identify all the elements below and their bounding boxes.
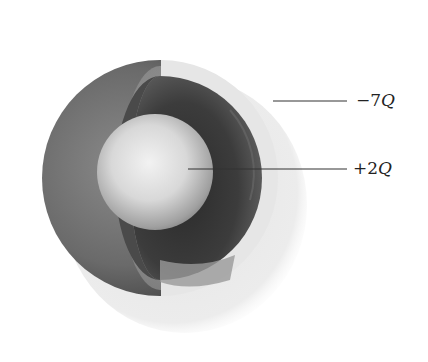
label-outer-shell-charge: −7Q [356, 90, 395, 110]
charge-coefficient: +2 [353, 158, 378, 178]
inner-sphere [97, 114, 213, 230]
sphere-shell-diagram [0, 0, 428, 362]
charge-symbol: Q [378, 158, 392, 178]
charge-symbol: Q [381, 90, 395, 110]
charge-coefficient: −7 [356, 90, 381, 110]
label-inner-sphere-charge: +2Q [353, 158, 392, 178]
